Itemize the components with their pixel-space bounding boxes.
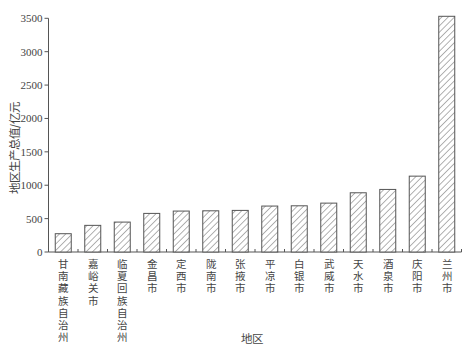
svg-text:市: 市: [442, 282, 452, 294]
svg-text:南: 南: [206, 270, 216, 282]
svg-text:银: 银: [294, 270, 305, 282]
svg-text:水: 水: [353, 270, 364, 282]
svg-text:州: 州: [58, 331, 68, 343]
x-tick-label: 天水市: [353, 258, 364, 294]
svg-text:州: 州: [117, 331, 127, 343]
svg-text:甘: 甘: [58, 258, 68, 270]
svg-text:市: 市: [206, 282, 216, 294]
svg-text:关: 关: [88, 282, 99, 294]
y-tick-label: 1500: [21, 146, 44, 158]
bar: [321, 203, 337, 252]
bar: [262, 206, 278, 252]
svg-text:西: 西: [176, 270, 186, 282]
svg-text:陇: 陇: [206, 258, 217, 270]
y-axis: 0500100015002000250030003500: [21, 12, 49, 258]
x-tick-label: 临夏回族自治州: [117, 258, 128, 343]
bar-chart: 0500100015002000250030003500 甘南藏族自治州嘉峪关市…: [0, 0, 465, 352]
svg-text:藏: 藏: [58, 282, 69, 294]
x-tick-label: 甘南藏族自治州: [58, 258, 69, 343]
y-tick-label: 2500: [21, 79, 44, 91]
svg-text:平: 平: [265, 258, 275, 270]
y-tick-label: 1000: [21, 179, 44, 191]
bar: [144, 213, 160, 252]
x-tick-label: 武威市: [324, 258, 335, 294]
category-labels: 甘南藏族自治州嘉峪关市临夏回族自治州金昌市定西市陇南市张掖市平凉市白银市武威市天…: [58, 258, 452, 343]
svg-text:武: 武: [324, 258, 335, 270]
svg-text:自: 自: [117, 307, 127, 319]
svg-text:市: 市: [383, 282, 393, 294]
x-tick-label: 张掖市: [235, 258, 246, 294]
svg-text:市: 市: [353, 282, 363, 294]
svg-text:市: 市: [176, 282, 186, 294]
x-tick-label: 陇南市: [206, 258, 217, 294]
x-tick-label: 酒泉市: [383, 258, 394, 294]
svg-text:自: 自: [58, 307, 68, 319]
svg-text:泉: 泉: [383, 270, 394, 282]
svg-text:峪: 峪: [88, 270, 99, 282]
svg-text:族: 族: [58, 295, 69, 307]
svg-text:天: 天: [353, 258, 364, 270]
bar: [55, 234, 71, 252]
svg-text:回: 回: [117, 282, 127, 294]
x-axis: [49, 249, 462, 252]
x-tick-label: 平凉市: [265, 258, 275, 294]
svg-text:市: 市: [412, 282, 422, 294]
svg-text:定: 定: [176, 258, 187, 270]
x-tick-label: 兰州市: [442, 258, 452, 294]
x-tick-label: 嘉峪关市: [88, 258, 99, 307]
bar: [173, 211, 189, 252]
bars: [55, 16, 455, 252]
y-tick-label: 500: [26, 213, 43, 225]
svg-text:兰: 兰: [442, 258, 452, 270]
bar: [114, 222, 130, 252]
svg-text:市: 市: [294, 282, 304, 294]
x-tick-label: 白银市: [294, 258, 305, 294]
svg-text:威: 威: [324, 270, 335, 282]
svg-text:酒: 酒: [383, 258, 394, 270]
svg-text:夏: 夏: [117, 270, 128, 282]
svg-text:市: 市: [324, 282, 334, 294]
svg-text:张: 张: [235, 258, 246, 270]
svg-text:州: 州: [442, 270, 452, 282]
x-tick-label: 庆阳市: [412, 258, 423, 294]
x-tick-label: 金昌市: [147, 258, 158, 294]
svg-text:族: 族: [117, 295, 128, 307]
bar: [85, 225, 101, 252]
svg-text:凉: 凉: [265, 270, 275, 282]
svg-text:市: 市: [235, 282, 245, 294]
svg-text:白: 白: [294, 258, 304, 270]
y-axis-title: 地区生产总值/亿元: [8, 101, 22, 194]
svg-text:掖: 掖: [235, 270, 246, 282]
bar: [291, 206, 307, 252]
bar: [203, 211, 219, 252]
svg-text:市: 市: [88, 295, 98, 307]
bar: [409, 176, 425, 252]
y-tick-label: 3500: [21, 12, 44, 24]
x-tick-label: 定西市: [176, 258, 187, 294]
svg-text:南: 南: [58, 270, 68, 282]
y-tick-label: 2000: [21, 112, 44, 124]
svg-text:庆: 庆: [412, 258, 423, 270]
svg-text:市: 市: [147, 282, 157, 294]
bar: [380, 189, 396, 252]
bar: [439, 16, 455, 252]
svg-text:嘉: 嘉: [88, 258, 98, 270]
y-tick-label: 3000: [21, 46, 44, 58]
svg-text:治: 治: [117, 319, 127, 331]
svg-text:昌: 昌: [147, 270, 157, 282]
bar: [350, 193, 366, 252]
svg-text:治: 治: [58, 319, 68, 331]
x-axis-title: 地区: [241, 332, 263, 346]
y-tick-label: 0: [37, 246, 43, 258]
svg-text:市: 市: [265, 282, 275, 294]
svg-text:阳: 阳: [412, 270, 422, 282]
svg-text:金: 金: [147, 258, 158, 270]
bar: [232, 210, 248, 252]
svg-text:临: 临: [117, 258, 127, 270]
